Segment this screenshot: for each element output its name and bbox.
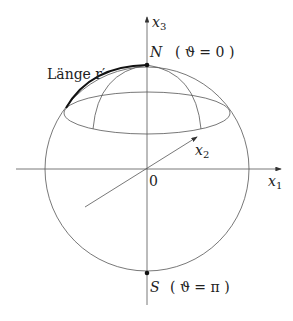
origin-label: 0: [149, 173, 158, 189]
arc-length-label: Länge r′: [47, 66, 105, 82]
south-annotation: ( ϑ = π ): [170, 279, 230, 295]
north-pole-dot: [145, 63, 150, 68]
north-label: N: [149, 44, 163, 60]
south-pole-dot: [145, 271, 150, 276]
x2-axis: [85, 137, 197, 207]
x3-label: x3: [152, 14, 166, 32]
south-label: S: [150, 279, 160, 295]
x1-label: x1: [268, 173, 282, 191]
sphere-diagram: x3 x2 x1 0 N ( ϑ = 0 ) S ( ϑ = π ) Länge…: [0, 0, 293, 321]
north-annotation: ( ϑ = 0 ): [175, 44, 234, 60]
x2-label: x2: [195, 142, 209, 160]
meridian-right: [147, 65, 201, 129]
